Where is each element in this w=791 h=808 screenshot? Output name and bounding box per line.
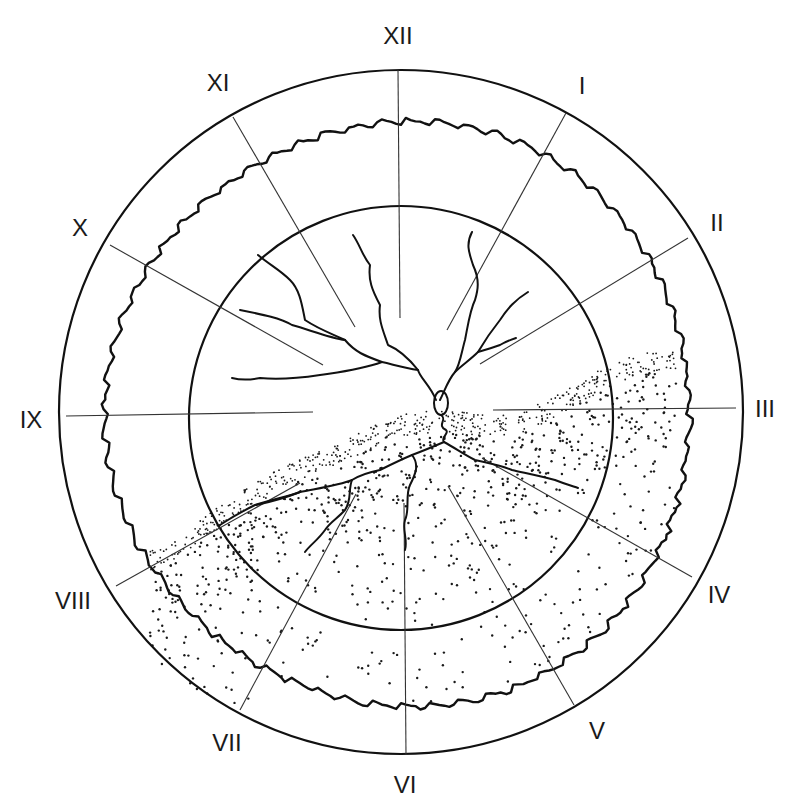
upper-branch — [455, 232, 478, 372]
spoke-i — [447, 113, 566, 330]
branching-lines — [220, 232, 578, 552]
hour-label-xii: XII — [383, 22, 412, 49]
spoke-xi — [233, 117, 355, 327]
spoke-x — [110, 245, 323, 365]
outer-circle — [59, 70, 743, 754]
upper-branch — [440, 292, 528, 400]
hour-label-xi: XI — [207, 69, 230, 96]
hour-spokes — [66, 70, 736, 755]
upper-branch — [240, 310, 345, 340]
hour-label-x: X — [72, 214, 88, 241]
upper-branch — [258, 255, 418, 370]
hour-label-iii: III — [755, 395, 775, 422]
upper-branch — [478, 338, 516, 352]
spoke-v — [448, 486, 574, 705]
spoke-iv — [482, 458, 692, 577]
clock-growth-diagram: XIIIIIIIIIVVVIVIIVIIIIXXXI — [0, 0, 791, 808]
lower-branch — [444, 442, 578, 488]
hour-label-vii: VII — [212, 729, 241, 756]
spoke-xii — [398, 70, 400, 318]
inner-circle — [189, 206, 613, 630]
hour-labels: XIIIIIIIIIVVVIVIIVIIIIXXXI — [20, 22, 775, 798]
hour-label-i: I — [579, 72, 586, 99]
lower-branch — [441, 415, 447, 442]
stippled-region — [149, 352, 677, 705]
hour-label-iv: IV — [708, 581, 731, 608]
spoke-iii — [493, 408, 736, 410]
hour-label-vi: VI — [394, 771, 417, 798]
hour-label-ii: II — [710, 209, 723, 236]
spoke-ii — [480, 238, 688, 364]
hour-label-v: V — [589, 717, 605, 744]
spoke-viii — [116, 483, 300, 586]
upper-branch — [353, 235, 436, 400]
lower-branch — [256, 492, 300, 505]
spoke-vii — [240, 494, 356, 710]
hour-label-viii: VIII — [55, 587, 91, 614]
upper-branch — [232, 362, 382, 380]
hour-label-ix: IX — [20, 406, 43, 433]
